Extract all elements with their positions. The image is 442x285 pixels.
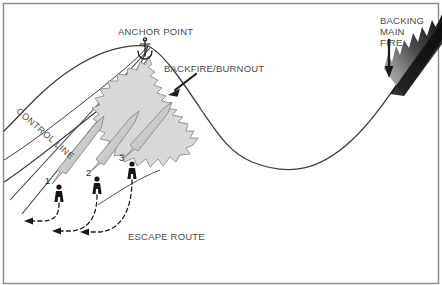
escape-route-arrowheads xyxy=(24,218,89,236)
escape-route-label: ESCAPE ROUTE xyxy=(128,231,205,242)
escape-route-group xyxy=(32,180,132,232)
firefighter-figure-3 xyxy=(127,161,136,179)
backing-main-fire-label: BACKING MAIN FIRE xyxy=(380,15,424,49)
diagram-border xyxy=(4,4,439,284)
firefighter-number-3: 3 xyxy=(119,153,124,163)
escape-route-path-2 xyxy=(60,195,97,231)
terrain-group xyxy=(4,18,442,205)
firefighter-number-2: 2 xyxy=(86,168,91,178)
escape-arrowhead-3 xyxy=(80,229,89,236)
firefighter-figure-1 xyxy=(54,184,63,202)
wildfire-tactics-diagram: ANCHOR POINT BACKFIRE/BURNOUT BACKING MA… xyxy=(0,0,442,285)
backfire-label-arrow-icon xyxy=(168,74,196,97)
anchor-point-label: ANCHOR POINT xyxy=(118,26,193,37)
diagram-canvas xyxy=(0,0,442,285)
escape-arrowhead-1 xyxy=(24,218,33,225)
escape-route-path-1 xyxy=(32,203,59,221)
firefighter-figure-2 xyxy=(92,176,101,194)
backfire-burnout-label: BACKFIRE/BURNOUT xyxy=(164,63,264,74)
escape-arrowhead-2 xyxy=(52,228,61,235)
firefighter-number-1: 1 xyxy=(45,176,50,186)
